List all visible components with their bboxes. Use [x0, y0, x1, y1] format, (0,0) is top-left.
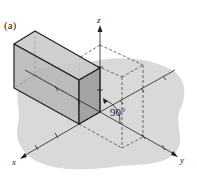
z-axis-label: z: [96, 15, 101, 25]
x-arrow-icon: [20, 153, 27, 159]
z-arrow-icon: [98, 25, 103, 32]
x-axis-label: x: [11, 157, 16, 167]
angle-label: 90°: [110, 106, 125, 118]
panel-label: (a): [4, 19, 17, 32]
rotation-diagram: (a) z x y 90°: [0, 0, 197, 188]
y-axis-label: y: [179, 155, 184, 165]
